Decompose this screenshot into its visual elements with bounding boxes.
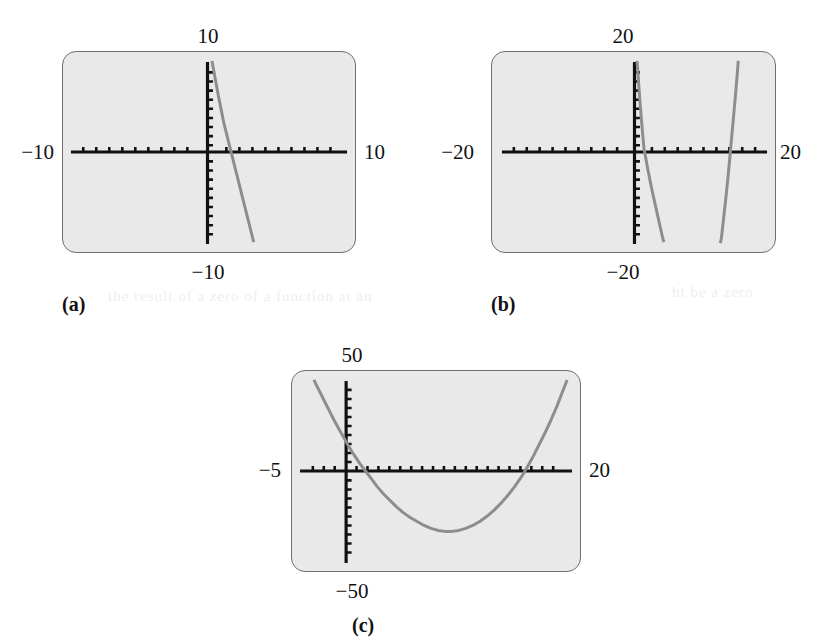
panel-b-label-right: 20 — [780, 142, 824, 163]
figure-root: the result of a zero of a function at an… — [0, 0, 834, 643]
panel-c-label-right: 20 — [589, 460, 633, 481]
panel-c-label-bottom: −50 — [336, 581, 369, 602]
panel-b-screen — [491, 51, 776, 253]
panel-a-label-right: 10 — [364, 142, 406, 163]
panel-a-label-top: 10 — [198, 26, 219, 47]
panel-c-label-left: −5 — [239, 460, 281, 481]
panel-a-plot-svg — [63, 52, 355, 252]
panel-c: 50 −50 −5 20 — [207, 318, 667, 643]
panel-c-plot-area — [292, 371, 580, 571]
panel-c-curve — [314, 380, 567, 531]
panel-b-label-bottom: −20 — [607, 262, 640, 283]
panel-c-x-axis — [300, 466, 572, 471]
panel-a-screen — [62, 51, 356, 253]
panel-a-label-bottom: −10 — [192, 262, 225, 283]
panel-c-screen — [291, 370, 581, 572]
panel-a-caption: (a) — [62, 293, 85, 316]
panel-c-caption: (c) — [352, 614, 374, 637]
panel-c-label-top: 50 — [342, 345, 363, 366]
panel-a-label-left: −10 — [12, 142, 54, 163]
panel-b-plot-svg — [492, 52, 775, 252]
panel-c-plot-svg — [292, 371, 580, 571]
panel-b-caption: (b) — [491, 293, 515, 316]
panel-b-label-top: 20 — [613, 26, 634, 47]
panel-a: 10 −10 −10 10 — [0, 0, 420, 320]
panel-a-plot-area — [63, 52, 355, 252]
panel-b-label-left: −20 — [424, 142, 474, 163]
panel-b: 20 −20 −20 20 — [414, 0, 834, 320]
panel-b-plot-area — [492, 52, 775, 252]
